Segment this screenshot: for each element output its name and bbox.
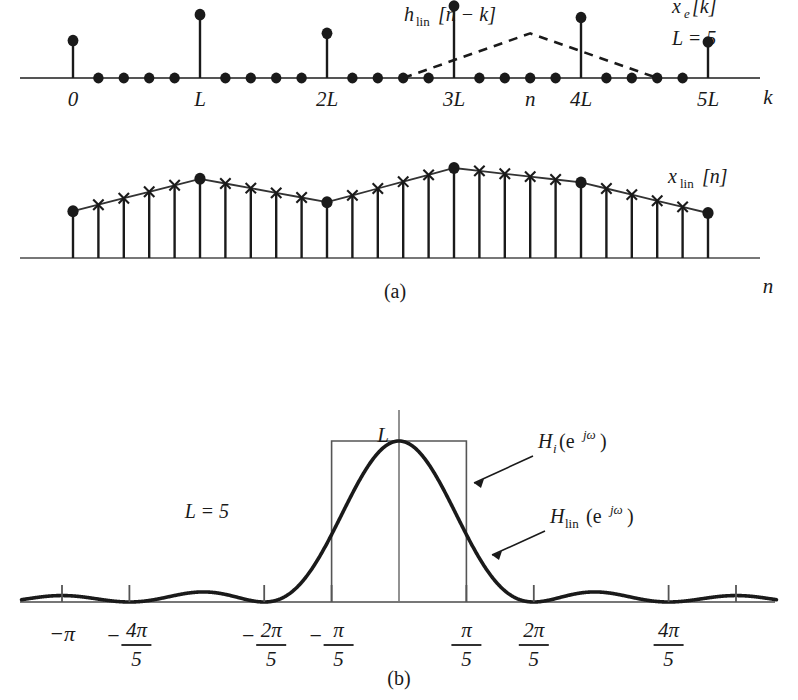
tick-label-group-omega: −π−4π5−2π5−π5π52π54π5	[49, 618, 684, 671]
tick-label-k-5: 4L	[570, 87, 592, 111]
tick-label-k-3: 3L	[442, 87, 465, 111]
tick-label-group-k: 0L2L3Ln4L5L	[68, 87, 719, 111]
tick-label-k-1: L	[193, 87, 206, 111]
tick-label-k-2: 2L	[316, 87, 338, 111]
hi-label-exp: jω	[581, 427, 596, 442]
tick-numerator: π	[461, 618, 472, 642]
stem-dot-zero	[677, 73, 687, 84]
stem-dot-zero	[652, 73, 662, 84]
leader-line-hi	[474, 456, 533, 483]
tick-numerator: π	[333, 618, 344, 642]
sample-marker-original	[702, 207, 713, 219]
tick-label-k-4: n	[525, 87, 536, 111]
signal-label-sub: e	[684, 6, 690, 21]
sample-marker-original	[575, 176, 586, 188]
tick-sign: −	[107, 623, 119, 648]
triangle-filter-hlin	[403, 33, 657, 78]
tick-numerator: 4π	[126, 618, 148, 642]
stem-dot-zero	[550, 73, 560, 84]
stem-dot-nonzero	[322, 28, 333, 40]
tick-denominator: 5	[333, 647, 344, 671]
tick-sign: −	[309, 623, 321, 648]
panel-b: −π−4π5−2π5−π5π52π54π5 L L = 5 H i (e jω …	[20, 410, 776, 690]
stem-dot-zero	[296, 73, 306, 84]
tick-denominator: 5	[461, 647, 472, 671]
param-label-L-panel-b: L = 5	[184, 500, 229, 522]
caption-a: (a)	[384, 280, 406, 303]
figure-root: 0L2L3Ln4L5L k h lin [n − k] x e [k] L = …	[0, 0, 798, 700]
hlin-label-sub: lin	[565, 516, 579, 531]
stem-dot-zero	[347, 73, 357, 84]
tick-denominator: 5	[131, 647, 142, 671]
stem-dot-zero	[525, 73, 535, 84]
tick-denominator: 5	[529, 647, 540, 671]
hlin-label-exp: jω	[608, 502, 623, 517]
hi-label-sub: i	[553, 441, 557, 456]
hi-label-base: H	[537, 430, 554, 452]
stem-dot-zero	[271, 73, 281, 84]
param-label-L-panel-a: L = 5	[671, 27, 716, 49]
stem-dot-zero	[601, 73, 611, 84]
signal-label-xe: x e [k]	[671, 0, 716, 21]
stem-dot-zero	[474, 73, 484, 84]
xlin-label-sub: lin	[680, 176, 694, 191]
figure-svg: 0L2L3Ln4L5L k h lin [n − k] x e [k] L = …	[0, 0, 798, 700]
axis-label-n-lower: n	[763, 274, 774, 298]
tick-label-k-6: 5L	[697, 87, 719, 111]
stem-dot-zero	[169, 73, 179, 84]
stem-dot-zero	[246, 73, 256, 84]
tick-numerator: 2π	[523, 618, 545, 642]
stem-dot-zero	[119, 73, 129, 84]
stem-dot-zero	[144, 73, 154, 84]
xlin-label-bracket: [n]	[702, 165, 728, 187]
hlin-label-base: H	[549, 505, 566, 527]
tick-label-omega-4: π5	[451, 618, 481, 671]
tick-label-omega-6: 4π5	[654, 618, 684, 671]
tick-numerator: 2π	[261, 618, 283, 642]
stem-dot-zero	[373, 73, 383, 84]
tick-numerator: 4π	[658, 618, 680, 642]
hi-label-arg: (e	[559, 430, 575, 453]
stem-group-xlin	[73, 168, 708, 258]
sample-marker-original	[67, 205, 78, 217]
sample-marker-original	[194, 173, 205, 185]
panel-a-upper: 0L2L3Ln4L5L k h lin [n − k] x e [k] L = …	[20, 0, 773, 111]
tick-label-omega-5: 2π5	[519, 618, 549, 671]
signal-label-bracket: [k]	[692, 0, 716, 17]
hlin-label-arg: (e	[586, 505, 602, 528]
interpolation-envelope	[73, 168, 708, 213]
tick-denominator: 5	[266, 647, 277, 671]
signal-label-base: x	[671, 0, 681, 17]
stem-dot-zero	[500, 73, 510, 84]
stem-dot-zero	[627, 73, 637, 84]
stem-dot-nonzero	[68, 35, 79, 47]
filter-label-bracket: [n − k]	[438, 3, 496, 25]
annotation-label-hlin: H lin (e jω )	[549, 502, 634, 531]
filter-label-base: h	[404, 3, 414, 25]
stem-dot-nonzero	[576, 12, 587, 24]
tick-label-omega-1: −4π5	[107, 618, 151, 671]
sample-marker-original	[448, 162, 459, 174]
stem-dot-nonzero	[195, 9, 206, 21]
hlin-label-close: )	[627, 505, 634, 528]
xlin-label-base: x	[667, 165, 677, 187]
tick-label-k-0: 0	[68, 87, 79, 111]
tick-label-omega-2: −2π5	[242, 618, 286, 671]
tick-denominator: 5	[663, 647, 674, 671]
axis-label-k: k	[763, 85, 773, 109]
hi-label-close: )	[600, 430, 607, 453]
sample-marker-original	[321, 196, 332, 208]
leader-line-hlin	[492, 531, 545, 555]
peak-label-L: L	[376, 423, 389, 447]
stem-dot-zero	[220, 73, 230, 84]
panel-a-lower: n x lin [n] (a)	[20, 162, 773, 303]
caption-b: (b)	[387, 667, 410, 690]
signal-label-xlin: x lin [n]	[667, 165, 728, 191]
filter-label-sub: lin	[416, 14, 430, 29]
stem-dot-zero	[423, 73, 433, 84]
filter-label-hlin: h lin [n − k]	[404, 3, 496, 29]
annotation-label-hi: H i (e jω )	[537, 427, 607, 456]
stem-dot-zero	[93, 73, 103, 84]
tick-label-omega-0: −π	[49, 621, 76, 646]
tick-label-omega-3: −π5	[309, 618, 353, 671]
